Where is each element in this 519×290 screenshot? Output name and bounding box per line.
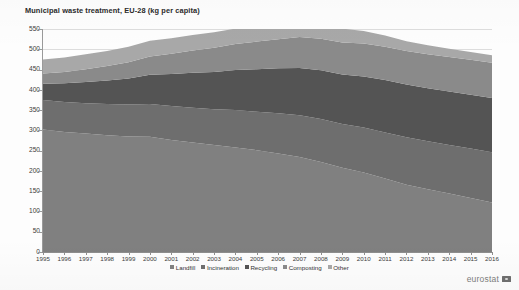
legend-label: Recycling bbox=[250, 264, 277, 271]
eu-flag-icon bbox=[502, 276, 511, 282]
legend-swatch-icon bbox=[245, 265, 249, 269]
legend-swatch-icon bbox=[283, 265, 287, 269]
legend-item-composting[interactable]: Composting bbox=[283, 263, 322, 271]
x-tick-mark bbox=[193, 252, 194, 255]
x-tick-mark bbox=[150, 252, 151, 255]
x-tick-mark bbox=[107, 252, 108, 255]
y-tick-label: 500 bbox=[2, 46, 40, 53]
plot-area bbox=[43, 29, 492, 252]
y-tick-label: 350 bbox=[2, 107, 40, 114]
legend-item-incineration[interactable]: Incineration bbox=[201, 263, 239, 271]
y-tick-label: 50 bbox=[2, 228, 40, 235]
legend-label: Other bbox=[333, 264, 348, 271]
legend-label: Landfill bbox=[176, 264, 196, 271]
x-axis-line bbox=[42, 252, 493, 253]
waste-treatment-area-chart: Municipal waste treatment, EU-28 (kg per… bbox=[0, 0, 519, 290]
x-tick-mark bbox=[406, 252, 407, 255]
y-axis-tick-labels: 550500450400350300250200150100500 bbox=[0, 0, 40, 290]
x-tick-mark bbox=[385, 252, 386, 255]
x-tick-mark bbox=[171, 252, 172, 255]
x-tick-mark bbox=[300, 252, 301, 255]
x-tick-mark bbox=[449, 252, 450, 255]
x-tick-mark bbox=[235, 252, 236, 255]
stacked-area-series bbox=[43, 29, 492, 252]
x-tick-label: 2016 bbox=[479, 255, 505, 262]
legend-item-landfill[interactable]: Landfill bbox=[170, 263, 195, 271]
legend-swatch-icon bbox=[201, 265, 205, 269]
legend-swatch-icon bbox=[170, 265, 174, 269]
x-tick-mark bbox=[428, 252, 429, 255]
legend-item-recycling[interactable]: Recycling bbox=[245, 263, 277, 271]
x-tick-mark bbox=[64, 252, 65, 255]
x-tick-mark bbox=[257, 252, 258, 255]
x-tick-mark bbox=[86, 252, 87, 255]
x-tick-mark bbox=[129, 252, 130, 255]
y-tick-label: 250 bbox=[2, 147, 40, 154]
chart-title: Municipal waste treatment, EU-28 (kg per… bbox=[25, 6, 200, 15]
y-tick-label: 550 bbox=[2, 26, 40, 33]
legend-swatch-icon bbox=[328, 265, 332, 269]
chart-legend: LandfillIncinerationRecyclingCompostingO… bbox=[0, 263, 519, 271]
y-tick-label: 150 bbox=[2, 188, 40, 195]
legend-item-other[interactable]: Other bbox=[328, 263, 349, 271]
x-tick-mark bbox=[43, 252, 44, 255]
x-tick-mark bbox=[492, 252, 493, 255]
eurostat-wordmark: eurostat bbox=[467, 274, 499, 284]
y-tick-label: 450 bbox=[2, 66, 40, 73]
x-tick-mark bbox=[342, 252, 343, 255]
x-tick-mark bbox=[321, 252, 322, 255]
y-tick-label: 300 bbox=[2, 127, 40, 134]
x-tick-mark bbox=[471, 252, 472, 255]
x-tick-mark bbox=[278, 252, 279, 255]
eurostat-brand: eurostat bbox=[467, 274, 511, 284]
x-tick-mark bbox=[364, 252, 365, 255]
legend-label: Composting bbox=[289, 264, 322, 271]
x-tick-mark bbox=[214, 252, 215, 255]
y-tick-label: 400 bbox=[2, 87, 40, 94]
legend-label: Incineration bbox=[207, 264, 239, 271]
y-tick-label: 100 bbox=[2, 208, 40, 215]
y-tick-label: 200 bbox=[2, 168, 40, 175]
